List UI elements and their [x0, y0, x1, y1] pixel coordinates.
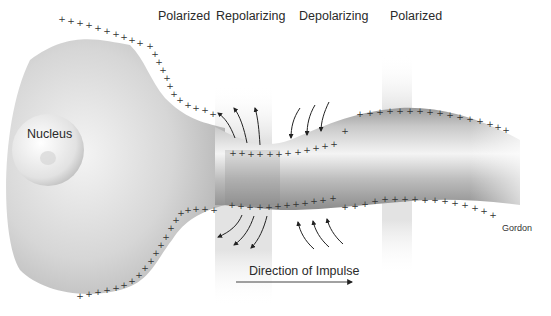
svg-text:+: +: [486, 119, 494, 129]
svg-text:+: +: [461, 200, 469, 210]
label-direction-of-impulse: Direction of Impulse: [249, 264, 359, 278]
svg-text:+: +: [256, 149, 264, 159]
svg-text:+: +: [120, 32, 128, 42]
svg-text:+: +: [292, 199, 300, 209]
svg-text:+: +: [406, 106, 414, 116]
label-nucleus: Nucleus: [27, 127, 72, 141]
svg-text:+: +: [391, 194, 399, 204]
label-polarized-right: Polarized: [390, 9, 442, 23]
svg-text:+: +: [266, 149, 274, 159]
svg-text:+: +: [441, 196, 449, 206]
svg-text:+: +: [184, 205, 192, 215]
svg-text:+: +: [120, 280, 128, 290]
svg-text:+: +: [421, 195, 429, 205]
svg-text:+: +: [184, 100, 192, 110]
svg-text:+: +: [319, 195, 327, 205]
svg-text:+: +: [128, 35, 136, 45]
svg-text:+: +: [480, 206, 488, 216]
svg-text:+: +: [489, 210, 497, 220]
svg-text:+: +: [192, 204, 200, 214]
svg-text:+: +: [85, 20, 93, 30]
svg-text:+: +: [85, 289, 93, 299]
svg-text:+: +: [436, 108, 444, 118]
svg-text:+: +: [476, 116, 484, 126]
svg-text:+: +: [274, 201, 282, 211]
svg-text:+: +: [256, 202, 264, 212]
svg-text:+: +: [294, 147, 302, 157]
svg-text:+: +: [284, 148, 292, 158]
svg-text:+: +: [301, 198, 309, 208]
svg-text:+: +: [451, 198, 459, 208]
svg-text:+: +: [330, 139, 338, 149]
svg-text:+: +: [494, 122, 502, 132]
svg-text:+: +: [411, 194, 419, 204]
label-polarized-left: Polarized: [158, 9, 210, 23]
svg-text:+: +: [321, 141, 329, 151]
svg-text:+: +: [201, 204, 209, 214]
svg-text:+: +: [386, 106, 394, 116]
svg-text:+: +: [431, 195, 439, 205]
svg-text:+: +: [228, 200, 236, 210]
svg-text:+: +: [381, 194, 389, 204]
svg-text:+: +: [237, 201, 245, 211]
svg-text:+: +: [351, 201, 359, 211]
svg-text:+: +: [209, 109, 217, 119]
svg-text:+: +: [341, 126, 349, 136]
svg-text:+: +: [94, 23, 102, 33]
svg-text:+: +: [58, 14, 66, 24]
svg-text:+: +: [371, 196, 379, 206]
svg-text:+: +: [112, 283, 120, 293]
svg-text:+: +: [446, 110, 454, 120]
svg-text:+: +: [103, 285, 111, 295]
svg-text:+: +: [94, 287, 102, 297]
depolarizing-arrows-bottom: [298, 219, 343, 249]
label-depolarizing: Depolarizing: [299, 9, 368, 23]
svg-text:+: +: [238, 148, 246, 158]
svg-text:+: +: [247, 149, 255, 159]
label-repolarizing: Repolarizing: [216, 9, 285, 23]
svg-text:+: +: [192, 103, 200, 113]
svg-text:+: +: [303, 145, 311, 155]
svg-text:+: +: [312, 143, 320, 153]
svg-text:+: +: [310, 196, 318, 206]
svg-text:+: +: [329, 193, 337, 203]
svg-text:+: +: [466, 114, 474, 124]
svg-text:+: +: [112, 29, 120, 39]
svg-text:+: +: [76, 291, 84, 301]
svg-text:+: +: [456, 112, 464, 122]
svg-text:+: +: [136, 38, 144, 48]
svg-text:+: +: [426, 107, 434, 117]
svg-text:+: +: [401, 194, 409, 204]
svg-text:+: +: [176, 95, 184, 105]
svg-text:+: +: [396, 106, 404, 116]
svg-text:+: +: [162, 232, 170, 242]
svg-text:+: +: [341, 202, 349, 212]
svg-text:+: +: [201, 105, 209, 115]
svg-text:+: +: [502, 125, 510, 135]
svg-text:+: +: [366, 108, 374, 118]
svg-text:+: +: [246, 202, 254, 212]
svg-text:+: +: [265, 202, 273, 212]
svg-text:+: +: [67, 16, 75, 26]
neuron-diagram: ++++ ++++ ++++ ++++ ++++ ++ ++++ ++++ ++…: [0, 0, 551, 316]
svg-text:+: +: [275, 149, 283, 159]
svg-text:+: +: [416, 106, 424, 116]
svg-text:+: +: [103, 26, 111, 36]
svg-text:+: +: [210, 205, 218, 215]
svg-text:+: +: [471, 203, 479, 213]
label-credit: Gordon: [502, 223, 532, 233]
svg-text:+: +: [356, 109, 364, 119]
svg-text:+: +: [76, 18, 84, 28]
svg-text:+: +: [361, 199, 369, 209]
nucleus: [12, 114, 84, 186]
svg-text:+: +: [283, 200, 291, 210]
svg-text:+: +: [229, 148, 237, 158]
svg-text:+: +: [376, 107, 384, 117]
